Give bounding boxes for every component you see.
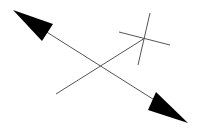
arrowhead-bottom-right-icon	[148, 92, 188, 123]
diagram-svg	[0, 0, 200, 131]
arrowhead-top-left-icon	[13, 10, 53, 41]
diagram-canvas	[0, 0, 200, 131]
